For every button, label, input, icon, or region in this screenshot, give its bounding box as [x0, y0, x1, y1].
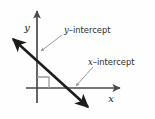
y-axis-label: y: [23, 22, 30, 33]
x-intercept-label-word: intercept: [97, 57, 135, 67]
y-intercept-leader: [41, 35, 62, 51]
intercepts-diagram: y–intercept x–intercept y x: [0, 0, 155, 119]
diagram-canvas: y–intercept x–intercept y x: [0, 0, 155, 119]
graphed-line: [13, 39, 88, 107]
x-intercept-label: x–intercept: [88, 57, 135, 67]
y-intercept-label-word: intercept: [73, 25, 111, 35]
right-angle-marker: [37, 77, 49, 88]
x-axis-label: x: [108, 93, 114, 104]
x-intercept-leader: [76, 67, 93, 86]
y-intercept-label: y–intercept: [63, 25, 111, 35]
